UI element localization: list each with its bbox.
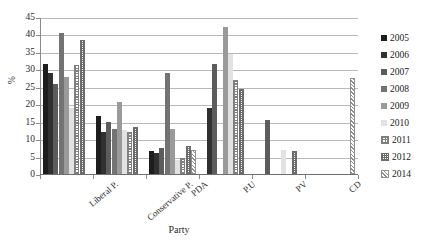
legend-swatch-icon [381,52,387,58]
y-axis-tick-label: 15 [26,118,36,128]
bar [239,89,244,174]
legend-label: 2011 [392,135,411,145]
x-axis-tick [93,175,94,179]
bar [186,146,191,174]
y-axis-tick-label: 45 [26,13,36,23]
y-axis-tick [36,158,40,159]
legend-label: 2010 [390,118,409,128]
bar [350,78,355,174]
legend-item: 2007 [381,64,443,81]
bar [159,148,164,174]
x-axis-tick [40,175,41,179]
legend-swatch-icon [381,136,389,144]
y-axis-tick [36,88,40,89]
bar [43,64,48,174]
legend: 200520062007200820092010201120122014 [381,30,443,182]
bar [207,108,212,174]
y-axis-tick-label: 10 [26,135,36,145]
y-axis-title: % [7,76,17,84]
bar [133,127,138,174]
x-axis-tick [305,175,306,179]
legend-item: 2014 [381,165,443,182]
bar [281,150,286,174]
legend-swatch-icon [381,170,389,178]
bar [53,84,58,174]
bar [48,73,53,174]
x-axis-category-label: Conservative P. [145,179,194,223]
legend-label: 2008 [390,84,409,94]
bar [106,122,111,174]
bar [59,33,64,174]
legend-label: 2014 [392,169,411,179]
x-axis-category-label: P.U [240,179,256,195]
legend-swatch-icon [381,153,389,161]
legend-swatch-icon [381,120,387,126]
x-axis-category-label: PV [293,179,308,194]
x-axis-category-label: PDA [189,179,209,198]
bar [233,80,238,174]
bar-group [149,18,196,174]
legend-swatch-icon [381,103,387,109]
x-axis-tick [146,175,147,179]
y-axis-tick [36,123,40,124]
bar-group [202,18,249,174]
y-axis-tick-label: 35 [26,48,36,58]
bar [74,65,79,174]
bar [223,27,228,174]
bar-group [308,18,355,174]
y-axis-tick-label: 30 [26,65,36,75]
bar [149,151,154,174]
bar [265,120,270,174]
y-axis-tick-label: 20 [26,100,36,110]
bar-group [43,18,90,174]
bar-group [255,18,302,174]
bar [165,73,170,174]
legend-item: 2011 [381,131,443,148]
bar [292,151,297,174]
plot-area [40,18,358,175]
bar [64,77,69,174]
bar [154,153,159,174]
y-axis-tick [36,175,40,176]
legend-label: 2006 [390,50,409,60]
legend-item: 2012 [381,148,443,165]
x-axis-tick [252,175,253,179]
bar-group [96,18,143,174]
legend-item: 2010 [381,114,443,131]
y-axis-tick [36,53,40,54]
y-axis-tick [36,70,40,71]
y-axis-tick [36,18,40,19]
bar [170,129,175,174]
y-axis-tick-label: 5 [30,153,35,163]
x-axis-category-label: Liberal P. [87,179,120,209]
legend-item: 2008 [381,81,443,98]
y-axis-tick [36,140,40,141]
y-axis-tick-label: 0 [30,170,35,180]
legend-item: 2009 [381,98,443,115]
bar [96,116,101,174]
legend-swatch-icon [381,35,387,41]
legend-label: 2009 [390,101,409,111]
bar [180,158,185,174]
y-axis-tick-label: 25 [26,83,36,93]
legend-swatch-icon [381,86,387,92]
bar [112,129,117,174]
legend-label: 2012 [392,152,411,162]
bar-chart: % 051015202530354045 Liberal P.Conservat… [0,0,444,243]
legend-label: 2007 [390,67,409,77]
bar [69,108,74,174]
x-axis-tick [358,175,359,179]
y-axis-tick [36,35,40,36]
bar [122,130,127,174]
legend-item: 2005 [381,30,443,47]
bar [212,64,217,174]
bar [80,40,85,174]
x-axis-tick [199,175,200,179]
x-axis-title: Party [0,224,358,235]
y-axis-tick-label: 40 [26,30,36,40]
x-axis-category-label: CD [346,179,362,195]
legend-label: 2005 [390,33,409,43]
bar [228,54,233,174]
legend-swatch-icon [381,69,387,75]
bar [101,132,106,174]
